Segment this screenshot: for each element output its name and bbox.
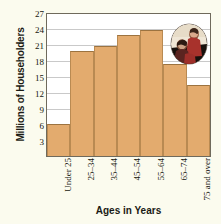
inset-photo bbox=[171, 24, 207, 64]
y-tick-label: 24 bbox=[26, 26, 44, 35]
y-tick-label: 15 bbox=[26, 74, 44, 83]
bar-cell bbox=[70, 14, 93, 156]
y-tick-label: 21 bbox=[26, 42, 44, 51]
bar-chart: Millions of Householders 27 24 21 18 15 … bbox=[0, 0, 221, 224]
bar-45-54 bbox=[117, 35, 140, 156]
y-tick-label: 9 bbox=[26, 106, 44, 115]
x-axis-tick-labels: Under 25 25–34 35–44 45–54 55–64 65–74 7… bbox=[47, 158, 210, 203]
y-tick-label: 27 bbox=[26, 10, 44, 19]
bar-cell bbox=[140, 14, 163, 156]
y-tick-label: 3 bbox=[26, 138, 44, 147]
bar-35-44 bbox=[94, 46, 117, 156]
y-tick-label: 18 bbox=[26, 58, 44, 67]
y-tick-label: 12 bbox=[26, 90, 44, 99]
bar-65-74 bbox=[163, 64, 186, 156]
bar-under-25 bbox=[47, 124, 70, 156]
bar-55-64 bbox=[140, 30, 163, 156]
bar-cell bbox=[94, 14, 117, 156]
x-tick-label: 75 and over bbox=[202, 158, 212, 201]
bar-25-34 bbox=[70, 51, 93, 156]
x-axis-title: Ages in Years bbox=[46, 205, 211, 216]
bar-75-and-over bbox=[187, 85, 210, 156]
bar-cell bbox=[47, 14, 70, 156]
bar-cell bbox=[117, 14, 140, 156]
y-tick-label: 6 bbox=[26, 122, 44, 131]
